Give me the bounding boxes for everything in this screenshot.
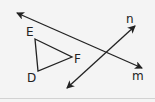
triangle-def bbox=[35, 39, 72, 71]
line-label-n: n bbox=[126, 12, 134, 26]
vertex-label-f: F bbox=[74, 52, 81, 66]
line-label-m: m bbox=[132, 69, 144, 83]
geometry-diagram: E F D n m bbox=[0, 0, 155, 102]
vertex-label-e: E bbox=[26, 25, 34, 39]
vertex-label-d: D bbox=[27, 71, 36, 85]
bottom-divider bbox=[0, 98, 155, 99]
